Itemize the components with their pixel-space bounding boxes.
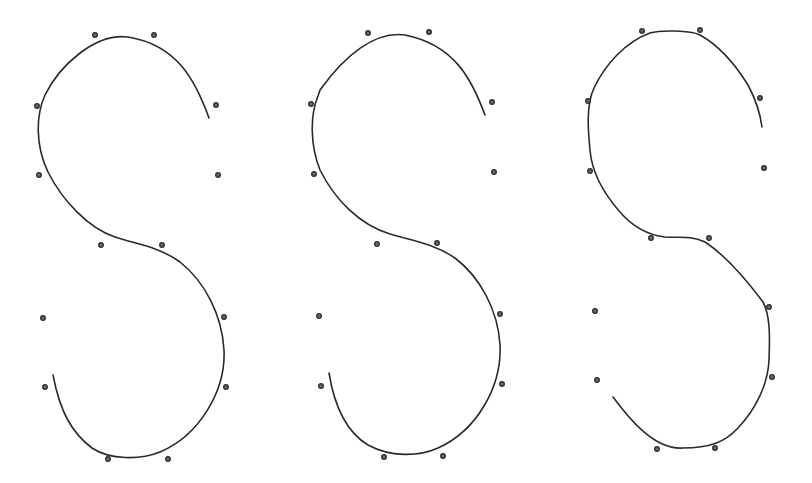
control-point [655, 447, 660, 452]
control-point [713, 446, 718, 451]
control-point [216, 173, 221, 178]
control-point [106, 457, 111, 462]
control-point [588, 169, 593, 174]
spline-curve [588, 31, 769, 448]
s-curve-left [35, 33, 229, 462]
s-curve-right [586, 28, 775, 452]
control-point [435, 241, 440, 246]
s-curve-middle [309, 30, 505, 460]
control-point [640, 29, 645, 34]
control-point [41, 316, 46, 321]
control-point [93, 33, 98, 38]
control-point [595, 378, 600, 383]
control-point [317, 314, 322, 319]
spline-curve [312, 35, 500, 455]
control-points [35, 33, 229, 462]
control-point [222, 315, 227, 320]
control-point [214, 103, 219, 108]
control-point [375, 242, 380, 247]
control-point [37, 173, 42, 178]
control-point [707, 236, 712, 241]
control-point [43, 385, 48, 390]
control-points [586, 28, 775, 452]
control-point [441, 454, 446, 459]
control-points [309, 30, 505, 460]
control-point [166, 457, 171, 462]
control-point [770, 375, 775, 380]
control-point [35, 104, 40, 109]
spline-figure [0, 0, 812, 483]
control-point [649, 236, 654, 241]
control-point [758, 96, 763, 101]
control-point [498, 312, 503, 317]
control-point [160, 243, 165, 248]
control-point [427, 30, 432, 35]
spline-curve [38, 37, 224, 458]
control-point [762, 166, 767, 171]
control-point [99, 243, 104, 248]
control-point [366, 31, 371, 36]
control-point [492, 170, 497, 175]
control-point [593, 309, 598, 314]
control-point [767, 305, 772, 310]
control-point [500, 382, 505, 387]
control-point [309, 102, 314, 107]
control-point [312, 172, 317, 177]
control-point [490, 100, 495, 105]
control-point [224, 385, 229, 390]
control-point [319, 384, 324, 389]
control-point [152, 33, 157, 38]
control-point [698, 28, 703, 33]
control-point [586, 99, 591, 104]
control-point [382, 455, 387, 460]
